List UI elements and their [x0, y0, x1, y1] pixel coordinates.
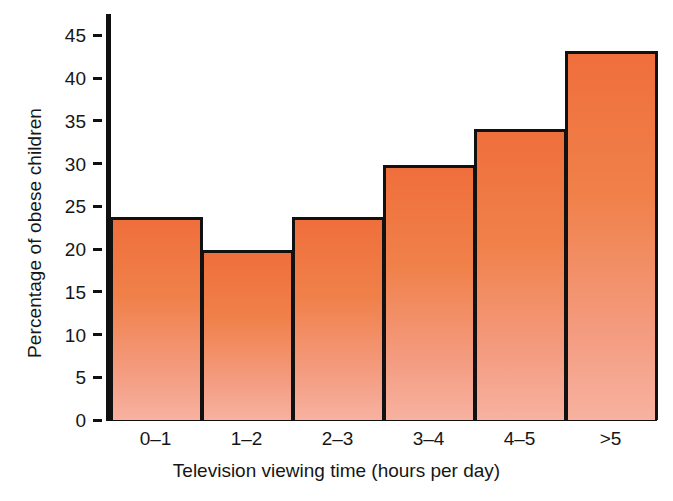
x-axis-title: Television viewing time (hours per day)	[0, 460, 673, 482]
y-tick-label: 45	[42, 26, 86, 45]
y-tick-label: 10	[42, 326, 86, 345]
y-tick-mark	[93, 205, 102, 208]
y-tick-label: 0	[42, 411, 86, 430]
plot-area: 051015202530354045 0–11–22–33–44–5>5	[110, 14, 656, 420]
y-tick-label: 40	[42, 69, 86, 88]
bar	[292, 217, 385, 420]
y-tick-mark	[93, 376, 102, 379]
x-tick-label: >5	[565, 428, 656, 450]
y-tick-label: 15	[42, 283, 86, 302]
bar	[201, 250, 294, 420]
x-tick-label: 4–5	[474, 428, 565, 450]
y-tick-label: 20	[42, 240, 86, 259]
y-tick-mark	[93, 248, 102, 251]
y-tick-label: 25	[42, 197, 86, 216]
x-tick-label: 0–1	[110, 428, 201, 450]
y-tick-mark	[93, 333, 102, 336]
y-tick-label: 5	[42, 368, 86, 387]
x-tick-label: 1–2	[201, 428, 292, 450]
bar-series	[110, 14, 656, 420]
bar	[110, 217, 203, 420]
x-tick-label: 3–4	[383, 428, 474, 450]
y-tick-mark	[93, 162, 102, 165]
bar	[474, 129, 567, 420]
y-tick-mark	[93, 34, 102, 37]
x-tick-label: 2–3	[292, 428, 383, 450]
y-tick-label: 30	[42, 155, 86, 174]
y-tick-mark	[93, 290, 102, 293]
y-tick-mark	[93, 419, 102, 422]
bar	[383, 165, 476, 420]
y-tick-label: 35	[42, 112, 86, 131]
y-tick-mark	[93, 119, 102, 122]
bar	[565, 51, 658, 420]
chart-figure: Percentage of obese children 05101520253…	[0, 0, 673, 501]
y-tick-mark	[93, 77, 102, 80]
